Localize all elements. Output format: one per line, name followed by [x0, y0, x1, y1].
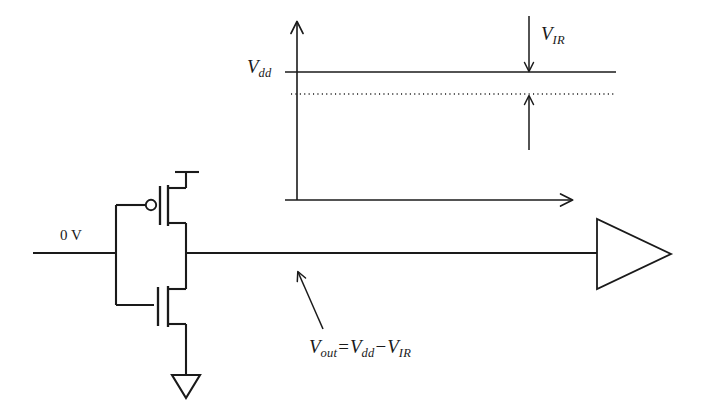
vir-term-sub: IR	[399, 346, 411, 360]
vout-sub: out	[321, 346, 338, 360]
pmos-inversion-bubble-icon	[146, 200, 156, 210]
vir-sub: IR	[553, 33, 565, 47]
waveform-plot	[285, 16, 616, 200]
nmos-transistor	[158, 253, 186, 375]
cmos-inverter-circuit	[33, 172, 671, 398]
buffer-amplifier	[597, 219, 671, 289]
figure-root: 0 V Vdd VIR Vout=Vdd−VIR	[0, 0, 705, 414]
vout-equation-label: Vout=Vdd−VIR	[309, 337, 411, 359]
ground-triangle	[172, 375, 200, 398]
plot-ylabel-vdd: Vdd	[247, 57, 272, 79]
input-voltage-label: 0 V	[60, 228, 82, 243]
vir-gap-label: VIR	[541, 24, 565, 46]
minus-sign: −	[375, 336, 388, 357]
equation-pointer-arrow	[298, 272, 323, 329]
vdd-sub: dd	[259, 66, 272, 80]
vdd-var: V	[247, 56, 259, 77]
equals-sign: =	[337, 336, 350, 357]
vir-var: V	[541, 23, 553, 44]
vdd-term-sub: dd	[362, 346, 375, 360]
pmos-transistor	[146, 172, 186, 253]
vout-var: V	[309, 336, 321, 357]
vir-term-var: V	[387, 336, 399, 357]
vdd-term-var: V	[350, 336, 362, 357]
